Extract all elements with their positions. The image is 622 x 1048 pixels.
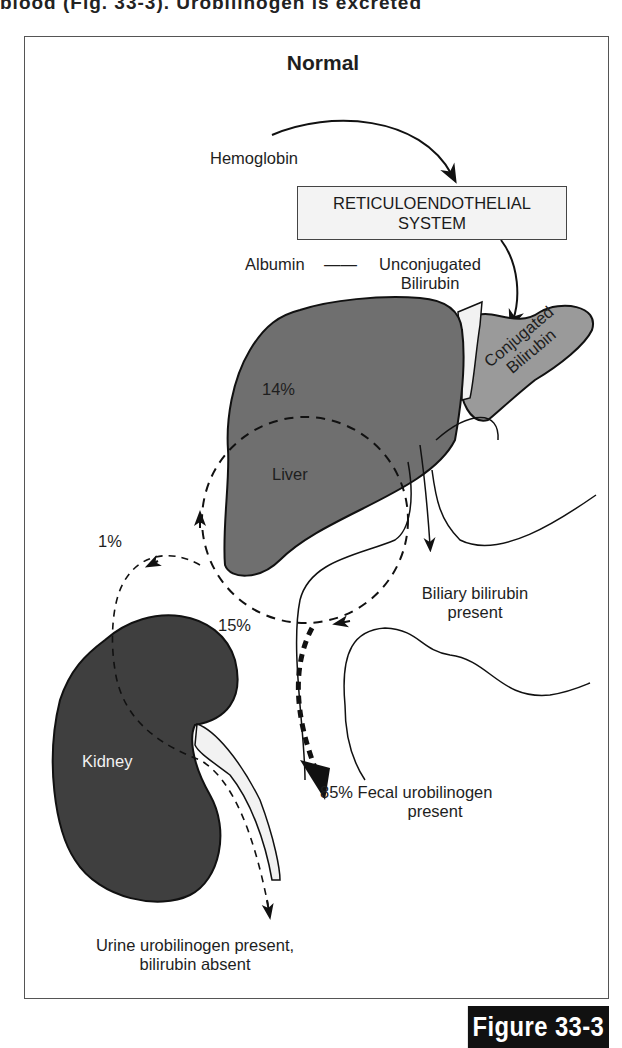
reticuloendothelial-system-box: RETICULOENDOTHELIAL SYSTEM bbox=[297, 186, 567, 240]
unconjugated-line1: Unconjugated bbox=[370, 255, 490, 274]
unconjugated-line2: Bilirubin bbox=[370, 274, 490, 293]
kidney-label: Kidney bbox=[82, 752, 132, 771]
urine-line1: Urine urobilinogen present, bbox=[80, 936, 310, 955]
fecal-urobilinogen-label: 85% Fecal urobilinogen present bbox=[320, 783, 550, 821]
res-label-line2: SYSTEM bbox=[398, 213, 466, 233]
percent-15-label: 15% bbox=[218, 616, 251, 635]
urine-line2: bilirubin absent bbox=[80, 955, 310, 974]
diagram-title: Normal bbox=[243, 53, 403, 72]
hemoglobin-arrow bbox=[272, 121, 452, 175]
unconjugated-bilirubin-label: Unconjugated Bilirubin bbox=[370, 255, 490, 293]
liver-label: Liver bbox=[272, 465, 308, 484]
percent-1-label: 1% bbox=[98, 532, 122, 551]
liver-shape bbox=[224, 297, 463, 576]
res-to-liver-arrow bbox=[501, 240, 517, 320]
res-label-line1: RETICULOENDOTHELIAL bbox=[333, 193, 531, 213]
urine-urobilinogen-label: Urine urobilinogen present, bilirubin ab… bbox=[80, 936, 310, 974]
hemoglobin-label: Hemoglobin bbox=[210, 149, 298, 168]
albumin-connector: —— bbox=[324, 255, 357, 274]
biliary-line2: present bbox=[400, 603, 550, 622]
biliary-bilirubin-label: Biliary bilirubin present bbox=[400, 584, 550, 622]
albumin-label: Albumin bbox=[245, 255, 305, 274]
percent-14-label: 14% bbox=[262, 380, 295, 399]
fecal-line1: 85% Fecal urobilinogen bbox=[320, 783, 550, 802]
fecal-line2: present bbox=[320, 802, 550, 821]
bilirubin-metabolism-diagram bbox=[0, 0, 622, 1048]
fecal-arrow bbox=[298, 628, 320, 780]
biliary-line1: Biliary bilirubin bbox=[400, 584, 550, 603]
figure-caption-label: Figure 33-3 bbox=[468, 1006, 609, 1048]
